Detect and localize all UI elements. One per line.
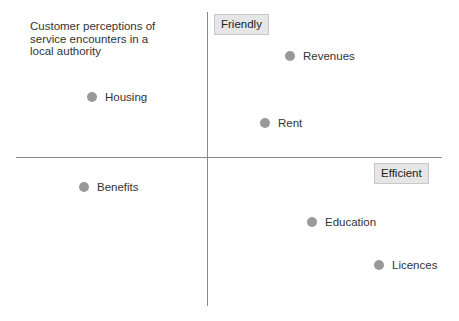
dot-icon [79,182,89,192]
point-label: Licences [392,259,437,271]
vertical-axis [207,12,208,306]
axis-label-efficient: Efficient [374,163,429,184]
point-label: Education [325,216,376,228]
dot-icon [285,51,295,61]
axis-label-friendly: Friendly [214,14,269,35]
dot-icon [260,118,270,128]
point-benefits: Benefits [79,181,139,193]
point-label: Revenues [303,50,355,62]
point-rent: Rent [260,117,302,129]
point-label: Rent [278,117,302,129]
point-housing: Housing [87,91,147,103]
dot-icon [374,260,384,270]
horizontal-axis [16,157,442,158]
point-label: Benefits [97,181,139,193]
point-licences: Licences [374,259,437,271]
dot-icon [87,92,97,102]
point-label: Housing [105,91,147,103]
point-revenues: Revenues [285,50,355,62]
point-education: Education [307,216,376,228]
diagram-title: Customer perceptions of service encounte… [30,20,170,58]
dot-icon [307,217,317,227]
